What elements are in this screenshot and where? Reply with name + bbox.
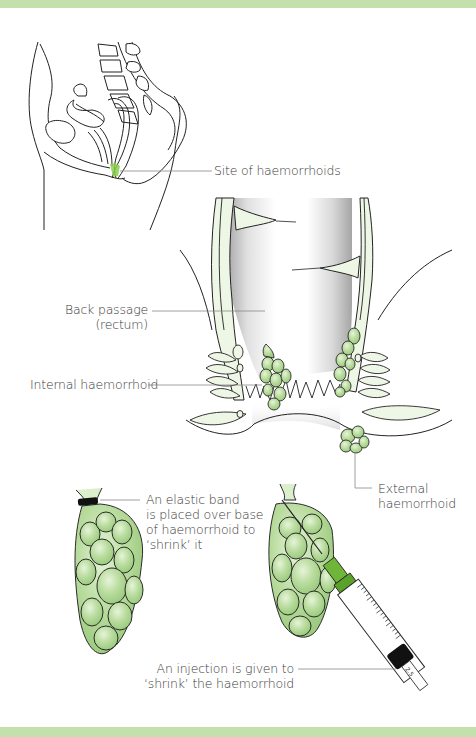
sagittal-view <box>29 42 186 230</box>
label-band-line2: is placed over base <box>146 507 263 522</box>
label-band-line4: ‘shrink’ it <box>146 537 263 552</box>
label-internal-haemorrhoid: Internal haemorrhoid <box>30 377 158 392</box>
label-injection-line2: ‘shrink’ the haemorrhoid <box>110 676 294 691</box>
label-elastic-band: An elastic band is placed over base of h… <box>146 492 263 552</box>
label-injection: An injection is given to ‘shrink’ the ha… <box>110 661 294 691</box>
injection-illustration <box>269 484 336 637</box>
label-band-line1: An elastic band <box>146 492 263 507</box>
medical-illustration: 2.5 <box>0 0 476 737</box>
label-back-passage: Back passage (rectum) <box>40 302 148 332</box>
label-back-passage-line2: (rectum) <box>40 317 148 332</box>
label-external-haemorrhoid: External haemorrhoid <box>378 481 456 511</box>
label-back-passage-line1: Back passage <box>40 302 148 317</box>
external-leader-line <box>355 452 372 488</box>
external-haemorrhoid-cluster <box>340 426 369 453</box>
label-band-line3: of haemorrhoid to <box>146 522 263 537</box>
label-site-of-haemorrhoids: Site of haemorrhoids <box>214 163 341 178</box>
banding-illustration <box>75 488 143 654</box>
anal-canal-section <box>148 198 452 488</box>
label-injection-line1: An injection is given to <box>110 661 294 676</box>
label-external-line2: haemorrhoid <box>378 496 456 511</box>
haemorrhoid-site-highlight <box>110 164 120 177</box>
label-external-line1: External <box>378 481 456 496</box>
